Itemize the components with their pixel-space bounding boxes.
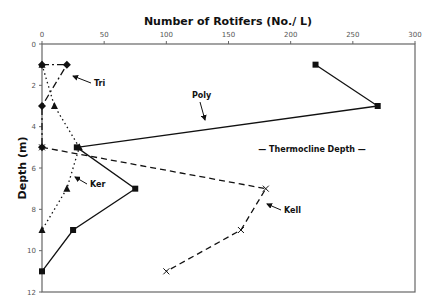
chart-title: Number of Rotifers (No./ L) xyxy=(144,15,312,28)
annotations: Tri Poly Ker Kell — Thermocline Depth — xyxy=(73,76,366,215)
arrow-poly-icon xyxy=(200,102,205,120)
axes: 050100150200250300024681012 xyxy=(27,31,422,297)
y-tick-label: 8 xyxy=(32,206,36,214)
x-tick-label: 200 xyxy=(284,31,297,39)
y-tick-label: 2 xyxy=(32,82,36,90)
y-tick-label: 0 xyxy=(32,41,36,49)
annotation-poly: Poly xyxy=(192,91,212,100)
annotation-tri: Tri xyxy=(94,79,106,88)
y-axis-label: Depth (m) xyxy=(16,137,29,200)
x-tick-label: 150 xyxy=(222,31,235,39)
x-tick-label: 0 xyxy=(40,31,44,39)
y-tick-label: 10 xyxy=(27,247,36,255)
x-tick-label: 300 xyxy=(408,31,421,39)
series-kell xyxy=(39,144,269,274)
arrow-ker-icon xyxy=(75,177,87,184)
y-tick-label: 4 xyxy=(32,123,37,131)
x-tick-label: 100 xyxy=(160,31,173,39)
thermocline-label: — Thermocline Depth — xyxy=(258,145,365,154)
arrow-tri-icon xyxy=(73,76,91,83)
y-tick-label: 6 xyxy=(32,165,37,173)
annotation-ker: Ker xyxy=(90,180,105,189)
y-tick-label: 12 xyxy=(27,289,36,297)
rotifer-depth-chart: Number of Rotifers (No./ L) Depth (m) 05… xyxy=(0,0,432,305)
annotation-kell: Kell xyxy=(284,206,301,215)
arrow-kell-icon xyxy=(267,204,281,210)
x-tick-label: 50 xyxy=(100,31,109,39)
x-tick-label: 250 xyxy=(346,31,359,39)
